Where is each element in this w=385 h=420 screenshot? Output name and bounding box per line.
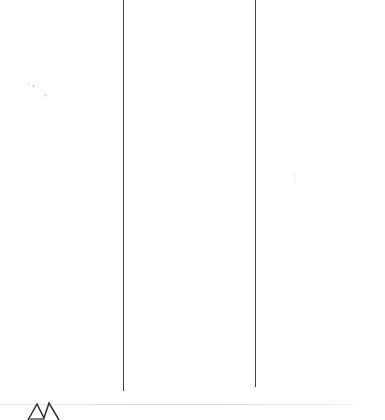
pencil-speck-right: ¦ [293, 174, 296, 182]
pencil-speck-left: '• [28, 83, 37, 89]
zigzag-mark-icon [26, 400, 62, 420]
left-column-divider [123, 0, 124, 391]
zigzag-stroke [28, 403, 59, 420]
scanned-page: '• + ¦ [0, 0, 385, 420]
right-column-divider [255, 0, 256, 387]
pencil-speck-plus: + [43, 92, 48, 98]
